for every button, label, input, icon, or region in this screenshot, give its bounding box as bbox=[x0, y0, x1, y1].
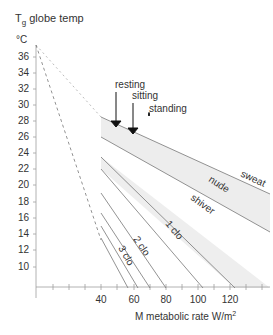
line-3clo-dashed bbox=[36, 45, 101, 240]
svg-text:36: 36 bbox=[18, 51, 30, 62]
svg-text:16: 16 bbox=[18, 212, 30, 223]
series-lines bbox=[36, 45, 270, 288]
svg-text:100: 100 bbox=[190, 294, 207, 305]
svg-text:20: 20 bbox=[18, 179, 30, 190]
svg-text:30: 30 bbox=[18, 99, 30, 110]
svg-text:34: 34 bbox=[18, 67, 30, 78]
svg-text:26: 26 bbox=[18, 131, 30, 142]
svg-text:120: 120 bbox=[222, 294, 239, 305]
svg-text:22: 22 bbox=[18, 163, 30, 174]
y-tick-labels: 36 34 32 30 28 26 24 22 20 18 16 14 12 1… bbox=[18, 51, 30, 272]
x-axis-title: M metabolic rate W/m2 bbox=[135, 310, 236, 322]
thermal-comfort-chart: Tg globe temp °C 36 34 32 30 28 26 24 22… bbox=[0, 0, 273, 335]
svg-text:10: 10 bbox=[18, 261, 30, 272]
y-axis bbox=[33, 45, 36, 298]
svg-text:Tg globe temp: Tg globe temp bbox=[15, 12, 84, 27]
svg-text:18: 18 bbox=[18, 196, 30, 207]
svg-text:14: 14 bbox=[18, 228, 30, 239]
label-standing: standing bbox=[149, 103, 187, 114]
y-unit: °C bbox=[16, 34, 27, 45]
activity-annotations: resting sitting standing bbox=[111, 79, 187, 134]
svg-text:80: 80 bbox=[160, 294, 172, 305]
svg-text:12: 12 bbox=[18, 244, 30, 255]
line-sweat-dashed bbox=[36, 45, 101, 117]
label-sitting: sitting bbox=[132, 90, 158, 101]
label-2clo: 2 clo bbox=[131, 234, 152, 258]
svg-text:40: 40 bbox=[95, 294, 107, 305]
y-axis-title: Tg globe temp °C bbox=[15, 12, 84, 45]
svg-text:32: 32 bbox=[18, 83, 30, 94]
svg-text:24: 24 bbox=[18, 147, 30, 158]
label-3clo: 3 clo bbox=[116, 244, 136, 268]
svg-text:60: 60 bbox=[128, 294, 140, 305]
label-resting: resting bbox=[115, 79, 145, 90]
svg-text:28: 28 bbox=[18, 115, 30, 126]
x-tick-labels: 40 60 80 100 120 bbox=[95, 294, 238, 305]
